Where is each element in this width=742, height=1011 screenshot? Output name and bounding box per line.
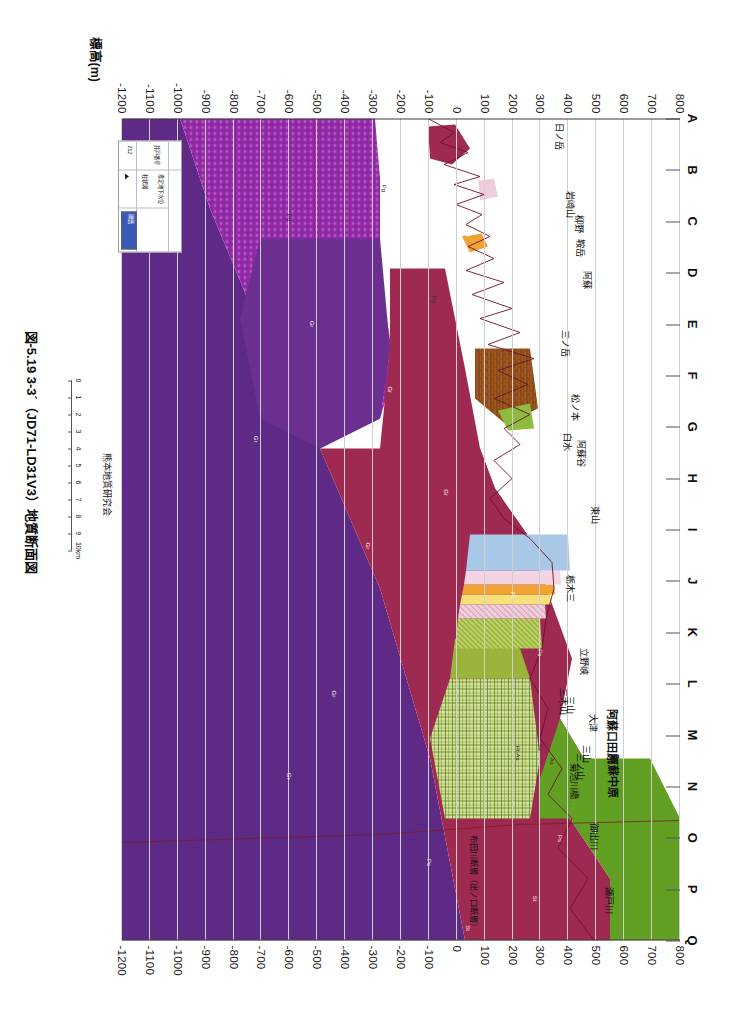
y-axis-right	[122, 939, 680, 940]
elevation-tick-label: -900	[200, 945, 212, 969]
gridline-elevation	[344, 118, 345, 940]
gridline-elevation	[512, 118, 513, 940]
station-tick	[666, 426, 680, 427]
place-label: 立野峡	[578, 647, 592, 674]
elevation-tick-label: 800	[674, 93, 686, 113]
gridline-elevation	[205, 118, 206, 940]
groundwater-marker-icon	[125, 173, 129, 179]
gridline-elevation	[400, 118, 401, 940]
place-label: 鞍岳	[574, 239, 588, 257]
elevation-tick-label: 300	[535, 945, 547, 965]
station-label-K: K	[685, 627, 700, 636]
cross-section-plot: 日ノ岳岩崎山柳野鞍岳阿蘇三ノ岳松ノ本白水阿蘇谷東山栃木三立野峡三木山三山大津三山…	[122, 118, 680, 940]
elevation-tick-label: -1000	[172, 945, 184, 975]
geology-unit-label: Ps	[538, 649, 544, 656]
geology-unit-label: St	[532, 895, 538, 901]
legend-divider-1	[168, 141, 169, 251]
legend-label-columnar: 柱状図	[142, 173, 149, 188]
station-tick	[666, 478, 680, 479]
elevation-tick-label: -700	[256, 89, 268, 113]
geology-unit-label: Gr	[331, 690, 337, 697]
station-tick	[666, 221, 680, 222]
y-axis-left	[122, 118, 680, 119]
geology-unit-label: Gr	[253, 435, 259, 442]
place-label: 東山	[589, 505, 603, 523]
elevation-tick-label: 100	[479, 93, 491, 113]
station-tick	[666, 375, 680, 376]
station-tick	[666, 632, 680, 633]
place-label: 瀬戸川	[603, 886, 617, 913]
station-label-I: I	[685, 527, 700, 531]
gridline-elevation	[484, 118, 485, 940]
station-label-O: O	[685, 832, 700, 842]
fault-label: 布田川断層（出ノ口断層）	[469, 834, 481, 930]
elevation-tick-label: -1000	[172, 83, 184, 113]
place-label: 白水	[561, 432, 575, 450]
legend-label-well-no: 井戸番号	[154, 144, 161, 164]
scale-tick-label: 3	[75, 429, 82, 433]
elevation-tick-label: 500	[590, 945, 602, 965]
elevation-tick-label: 400	[562, 93, 574, 113]
place-label: 阿蘇谷	[575, 440, 589, 467]
credit-text: 熊本地質研究会	[101, 452, 114, 515]
station-label-H: H	[685, 473, 700, 482]
gridline-elevation	[372, 118, 373, 940]
elevation-tick-label: 400	[562, 945, 574, 965]
elevation-tick-label: -200	[395, 945, 407, 969]
station-tick	[666, 324, 680, 325]
scale-tick-label: 4	[75, 446, 82, 450]
geology-unit-label: Gr	[387, 386, 393, 393]
station-tick	[666, 169, 680, 170]
geology-unit-label: Gr	[309, 320, 315, 327]
place-label: 栃木三	[564, 575, 578, 602]
place-label: 阿蘇	[581, 270, 595, 288]
station-label-E: E	[685, 319, 700, 328]
geology-unit-label: Ps	[426, 858, 432, 865]
geology-unit-label: Gr	[365, 542, 371, 549]
station-tick	[666, 735, 680, 736]
elevation-tick-label: 200	[507, 945, 519, 965]
station-label-M: M	[685, 729, 700, 740]
elevation-tick-label: -700	[256, 945, 268, 969]
elevation-tick-label: -100	[423, 945, 435, 969]
elevation-tick-label: -600	[283, 89, 295, 113]
elevation-tick-label: -100	[423, 89, 435, 113]
geology-unit-label: Ps	[510, 591, 516, 598]
station-label-J: J	[685, 577, 700, 584]
gridline-elevation	[428, 118, 429, 940]
station-label-L: L	[685, 679, 700, 687]
geology-unit-label: Ht-As	[515, 745, 521, 760]
place-label: 三ノ岳	[559, 330, 573, 357]
elevation-tick-label: -600	[283, 945, 295, 969]
station-label-N: N	[685, 781, 700, 790]
station-tick	[666, 786, 680, 787]
station-label-B: B	[685, 165, 700, 174]
gridline-elevation	[456, 118, 457, 940]
scale-tick-label: 1	[75, 395, 82, 399]
elevation-tick-label: -400	[339, 89, 351, 113]
scale-tick	[68, 431, 72, 432]
distance-scale: 012345678910km	[60, 380, 82, 560]
station-label-Q: Q	[685, 935, 700, 945]
elevation-tick-label: 0	[451, 106, 463, 113]
elevation-tick-label: 700	[646, 93, 658, 113]
place-label: 大津	[587, 713, 601, 731]
scale-tick	[68, 465, 72, 466]
geology-unit-label: Pg	[381, 184, 387, 191]
scale-tick	[68, 380, 72, 381]
geology-unit-label: Ss	[538, 743, 544, 750]
scale-tick	[68, 397, 72, 398]
elevation-tick-label: 300	[535, 93, 547, 113]
scale-tick-label: 8	[75, 514, 82, 518]
elevation-tick-label: -1100	[144, 945, 156, 975]
legend-box: 井戸番号 推定地下水位 柱状図 212 礫層	[118, 140, 182, 252]
elevation-tick-label: 700	[646, 945, 658, 965]
station-tick	[666, 683, 680, 684]
elevation-tick-label: 200	[507, 93, 519, 113]
place-label: 松ノ本	[569, 394, 583, 421]
legend-label-groundwater: 推定地下水位	[158, 173, 165, 203]
station-tick	[666, 837, 680, 838]
elevation-tick-label: 0	[451, 945, 463, 952]
station-tick	[666, 272, 680, 273]
scale-tick-label: 10km	[75, 541, 82, 558]
